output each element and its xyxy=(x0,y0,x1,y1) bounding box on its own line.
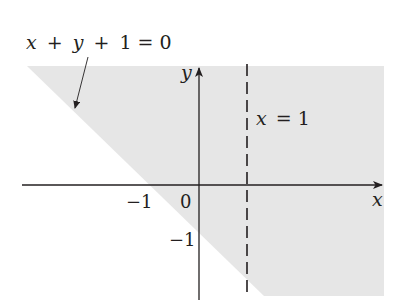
boundary-equation-label: x + y + 1 = 0 xyxy=(26,31,172,53)
origin-label: 0 xyxy=(180,191,191,212)
vertical-line-label: x = 1 xyxy=(256,107,310,129)
x-axis-label: x xyxy=(372,188,383,210)
shaded-region xyxy=(27,66,384,296)
x-tick-label-neg1: −1 xyxy=(126,191,153,212)
region-graph: x + y + 1 = 0 y x = 1 x −1 0 −1 xyxy=(0,0,407,307)
y-tick-label-neg1: −1 xyxy=(169,229,196,250)
y-axis-label: y xyxy=(180,61,192,83)
